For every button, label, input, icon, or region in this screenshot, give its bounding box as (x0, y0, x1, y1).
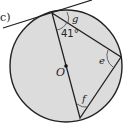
given-angle-label: 41° (61, 28, 79, 39)
angle-e-label: e (99, 55, 105, 66)
circle-theorem-diagram: c) O 41° g e f (0, 0, 123, 125)
center-label: O (56, 66, 65, 79)
angle-g-label: g (72, 13, 78, 24)
part-label: c) (0, 11, 10, 24)
